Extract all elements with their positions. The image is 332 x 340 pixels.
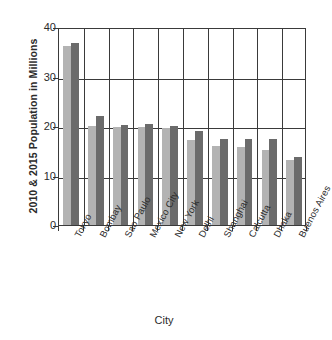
bar-2015-bombay (96, 116, 104, 225)
gridline-vertical (158, 29, 159, 225)
y-tick-label: 10 (16, 170, 56, 182)
gridline-vertical (133, 29, 134, 225)
x-tick-mark (58, 226, 59, 231)
plot-inner (59, 29, 305, 225)
bar-2015-shanghai (220, 139, 228, 225)
y-tick-label: 30 (16, 71, 56, 83)
gridline-vertical (84, 29, 85, 225)
gridline-vertical (183, 29, 184, 225)
bar-2010-shanghai (212, 146, 220, 225)
bar-2015-tokyo (71, 43, 79, 225)
y-tick-label: 20 (16, 120, 56, 132)
gridline-vertical (233, 29, 234, 225)
bar-2010-tokyo (63, 46, 71, 225)
gridline-vertical (257, 29, 258, 225)
y-tick-label: 0 (16, 219, 56, 231)
plot-area (58, 28, 306, 226)
x-axis-title: City (0, 314, 328, 326)
gridline-horizontal (59, 79, 305, 80)
y-tick-label: 40 (16, 21, 56, 33)
gridline-vertical (282, 29, 283, 225)
bar-2015-calcutta (245, 139, 253, 225)
bar-2015-dhaka (269, 139, 277, 225)
bar-2015-buenos-aires (294, 157, 302, 225)
bar-2010-bombay (88, 126, 96, 225)
gridline-vertical (208, 29, 209, 225)
gridline-vertical (109, 29, 110, 225)
